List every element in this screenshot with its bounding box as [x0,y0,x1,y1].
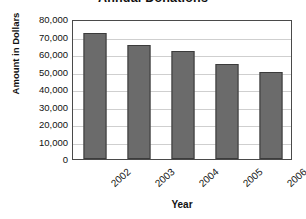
x-axis-tick-label: 2006 [285,166,306,189]
bar-slot [161,21,205,159]
bar-2004[interactable] [172,51,195,160]
x-axis-tick-label: 2004 [197,166,221,189]
bar-2002[interactable] [84,33,107,159]
y-axis-tick-label: 30,000 [18,103,68,113]
y-axis-tick-label: 10,000 [18,138,68,148]
bar-2006[interactable] [260,72,283,159]
y-axis-tick-label: 70,000 [18,33,68,43]
x-axis-title: Year [72,199,292,210]
chart-title: Annual Donations [0,0,306,5]
bar-2005[interactable] [216,64,239,159]
x-axis-tick-labels: 20022003200420052006 [72,160,292,200]
x-axis-tick-label: 2002 [109,166,133,189]
bar-chart: Annual Donations Amount in Dollars 80,00… [0,0,306,219]
y-axis-tick-label: 80,000 [18,15,68,25]
bar-slot [117,21,161,159]
bar-slot [73,21,117,159]
bar-2003[interactable] [128,45,151,159]
y-axis-tick-label: 50,000 [18,68,68,78]
y-axis-tick-label: 20,000 [18,120,68,130]
y-axis-tick-label: 0 [18,155,68,165]
bar-slot [249,21,293,159]
y-axis-tick-label: 60,000 [18,50,68,60]
y-axis-tick-label: 40,000 [18,85,68,95]
bar-slot [205,21,249,159]
x-axis-tick-label: 2005 [241,166,265,189]
x-axis-tick-label: 2003 [153,166,177,189]
y-axis-tick-labels: 80,00070,00060,00050,00040,00030,00020,0… [18,20,68,160]
bars-layer [73,21,291,159]
plot-area [72,20,292,160]
